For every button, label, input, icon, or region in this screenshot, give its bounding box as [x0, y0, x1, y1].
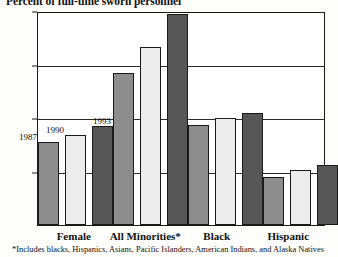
bar-group [263, 13, 338, 225]
bar-1987-allminorities[interactable] [113, 73, 134, 225]
bar-1990-female[interactable]: 1990 [65, 135, 86, 225]
x-axis-label: Black [181, 230, 253, 246]
chart-footnote: *Includes blacks, Hispanics, Asians, Pac… [0, 245, 336, 254]
bar-1990-allminorities[interactable] [140, 47, 161, 225]
bar-1993-allminorities[interactable] [167, 14, 188, 225]
bar-group [113, 13, 188, 225]
x-axis-label: Hispanic [253, 230, 325, 246]
bar-1987-black[interactable] [188, 125, 209, 225]
bar-1993-female[interactable]: 1993 [92, 126, 113, 225]
bar-1993-hispanic[interactable] [317, 165, 338, 225]
legend-label-1987: 1987 [19, 133, 37, 142]
legend-label-1993: 1993 [93, 117, 111, 126]
x-axis-label: All Minorities* [110, 230, 182, 246]
bar-1987-female[interactable]: 1987 [38, 142, 59, 225]
x-axis-labels: FemaleAll Minorities*BlackHispanic [38, 230, 324, 246]
legend-label-1990: 1990 [46, 126, 64, 135]
bar-group: 198719901993 [38, 13, 113, 225]
bar-group [188, 13, 263, 225]
bar-1990-hispanic[interactable] [290, 170, 311, 225]
chart-title: Percent of full-time sworn personnel [6, 0, 181, 7]
bar-groups: 198719901993 [38, 13, 324, 225]
bar-1990-black[interactable] [215, 118, 236, 225]
x-axis-label: Female [38, 230, 110, 246]
bar-1987-hispanic[interactable] [263, 177, 284, 225]
bar-1993-black[interactable] [242, 113, 263, 225]
